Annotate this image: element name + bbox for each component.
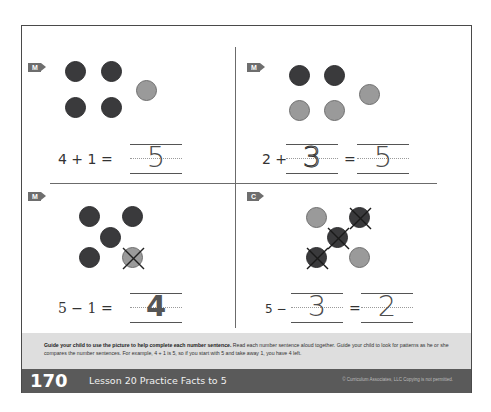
counter-dark <box>79 247 100 268</box>
blank-box[interactable]: 3 <box>286 144 338 174</box>
counter-light <box>306 207 327 228</box>
instruction-band: Guide your child to use the picture to h… <box>22 333 471 369</box>
counter-dark <box>101 97 122 118</box>
cross-out-icon <box>305 246 330 271</box>
equation-4: 5 − 3 = 2 <box>265 293 465 323</box>
equation-left: 5 − 1 = <box>58 300 113 316</box>
lesson-title: Lesson 20 Practice Facts to 5 <box>89 375 227 386</box>
blank-box[interactable]: 3 <box>291 293 343 323</box>
counter-dark-crossed <box>306 247 327 268</box>
answer-digit: 3 <box>291 289 343 323</box>
counter-dark <box>65 97 86 118</box>
answer-box[interactable]: 2 <box>361 293 413 323</box>
counter-dark <box>100 227 121 248</box>
page-number: 170 <box>30 370 68 391</box>
counter-dark-crossed <box>349 207 370 228</box>
counter-dark <box>79 206 100 227</box>
counter-dark <box>289 65 310 86</box>
horizontal-divider <box>50 183 437 184</box>
counter-dark-crossed <box>327 227 348 248</box>
cross-out-icon <box>121 246 146 271</box>
equation-2: 2 + 3 = 5 <box>262 144 462 174</box>
equals-sign: = <box>344 151 356 167</box>
traced-digit: 3 <box>286 140 338 174</box>
badge-m: M <box>247 63 260 72</box>
counter-light <box>359 84 380 105</box>
vertical-divider <box>235 47 236 328</box>
instruction-bold: Guide your child to use the picture to h… <box>44 342 231 348</box>
page-footer: 170 Lesson 20 Practice Facts to 5 © Curr… <box>22 369 471 393</box>
answer-box[interactable]: 5 <box>357 144 409 174</box>
counter-light-crossed <box>122 247 143 268</box>
answer-digit: 4 <box>130 289 182 323</box>
counter-dark <box>122 206 143 227</box>
answer-digit: 5 <box>130 140 182 174</box>
equation-left: 5 − <box>265 302 287 316</box>
instruction-text: Guide your child to use the picture to h… <box>44 341 454 357</box>
counter-light <box>324 100 345 121</box>
cross-out-icon <box>348 206 373 231</box>
counter-light <box>136 80 157 101</box>
equation-1: 4 + 1 = 5 <box>58 144 198 174</box>
equation-left: 2 + <box>262 151 287 167</box>
counter-dark <box>101 61 122 82</box>
badge-c: C <box>247 192 259 201</box>
equation-left: 4 + 1 = <box>58 151 113 167</box>
counter-light <box>349 247 370 268</box>
counter-light <box>289 100 310 121</box>
equals-sign: = <box>349 300 361 316</box>
answer-digit: 2 <box>361 289 413 323</box>
answer-digit: 5 <box>357 140 409 174</box>
copyright-notice: © Curriculum Associates, LLC Copying is … <box>342 377 453 382</box>
badge-m: M <box>28 192 41 201</box>
counter-dark <box>324 65 345 86</box>
counter-dark <box>65 61 86 82</box>
badge-m: M <box>28 63 41 72</box>
worksheet-page: M 4 + 1 = 5 M 2 + 3 = <box>21 25 472 393</box>
equation-3: 5 − 1 = 4 <box>58 293 198 323</box>
answer-box[interactable]: 5 <box>130 144 182 174</box>
answer-box[interactable]: 4 <box>130 293 182 323</box>
